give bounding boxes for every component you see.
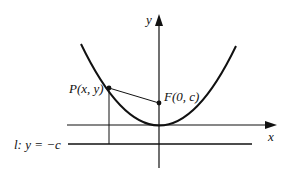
- point-p: [107, 86, 112, 91]
- x-axis-arrow-icon: [265, 121, 277, 129]
- y-axis-arrow-icon: [155, 14, 163, 26]
- point-p-label: P(x, y): [68, 81, 104, 96]
- y-axis-label: y: [144, 12, 152, 27]
- directrix-label: l: y = −c: [14, 137, 61, 152]
- point-focus: [157, 101, 162, 106]
- x-axis-label: x: [267, 129, 274, 144]
- parabola-diagram: y x P(x, y) F(0, c) l: y = −c: [0, 0, 291, 176]
- focus-label: F(0, c): [163, 89, 199, 104]
